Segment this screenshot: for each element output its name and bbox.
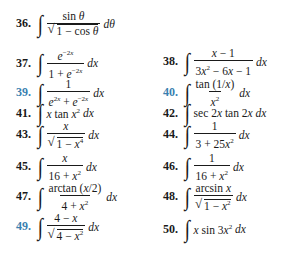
problem-number: 48. [163, 189, 184, 204]
integrand: x tan x2 [47, 107, 83, 120]
differential: dx [86, 161, 97, 173]
differential: dx [236, 191, 247, 203]
problem-50: 50. ∫ x sin 3x2 dx [163, 219, 246, 239]
differential: dx [87, 57, 98, 69]
fraction: arctan (x/2) 4 + x2 [47, 182, 104, 212]
differential: dx [93, 87, 104, 99]
fraction: x 16 + x2 [47, 152, 83, 182]
problem-number: 37. [16, 56, 37, 71]
problem-44: 44. ∫ 1 3 + 25x2 dx [163, 120, 250, 150]
fraction: x − 1 3x2 − 6x − 1 [194, 47, 253, 77]
problem-49: 49. ∫ 4 − x 4 − x2 dx [16, 212, 99, 242]
differential: dx [106, 191, 117, 203]
fraction: x 1 − x4 [47, 120, 86, 150]
fraction: 4 − x 4 − x2 [47, 212, 86, 242]
fraction: 1 16 + x2 [194, 152, 230, 182]
integral-sign-icon: ∫ [38, 187, 43, 207]
integral-sign-icon: ∫ [38, 125, 43, 145]
integrand: sec 2x tan 2x [194, 107, 256, 119]
integral-sign-icon: ∫ [38, 14, 43, 34]
problem-number: 50. [163, 222, 184, 237]
integral-sign-icon: ∫ [185, 157, 190, 177]
differential: dx [256, 107, 267, 119]
fraction: e−2x 1 + e−2x [47, 47, 85, 80]
differential: dx [239, 129, 250, 141]
differential: dx [235, 223, 246, 235]
differential: dx [88, 129, 99, 141]
integral-sign-icon: ∫ [185, 52, 190, 72]
differential: dx [88, 221, 99, 233]
problem-number: 38. [163, 54, 184, 69]
integral-sign-icon: ∫ [38, 217, 43, 237]
problem-46: 46. ∫ 1 16 + x2 dx [163, 152, 244, 182]
differential: dx [233, 161, 244, 173]
differential: dθ [103, 18, 114, 30]
differential: dx [83, 107, 94, 119]
integral-sign-icon: ∫ [38, 157, 43, 177]
problem-number: 45. [16, 159, 37, 174]
problem-number: 47. [16, 189, 37, 204]
problem-number: 41. [16, 106, 37, 121]
differential: dx [256, 56, 267, 68]
problem-45: 45. ∫ x 16 + x2 dx [16, 152, 97, 182]
problem-36: 36. ∫ sin θ 1 − cos θ dθ [16, 10, 115, 37]
problem-number: 42. [163, 106, 184, 121]
integral-sign-icon: ∫ [185, 187, 190, 207]
integral-sign-icon: ∫ [185, 219, 190, 239]
integral-sign-icon: ∫ [185, 125, 190, 145]
problem-number: 44. [163, 127, 184, 142]
differential: dx [239, 87, 250, 99]
problem-number: 43. [16, 127, 37, 142]
problem-37: 37. ∫ e−2x 1 + e−2x dx [16, 47, 98, 80]
problem-38: 38. ∫ x − 1 3x2 − 6x − 1 dx [163, 47, 267, 77]
problem-43: 43. ∫ x 1 − x4 dx [16, 120, 99, 150]
problem-number: 36. [16, 16, 37, 31]
fraction: 1 3 + 25x2 [194, 120, 236, 150]
problem-47: 47. ∫ arctan (x/2) 4 + x2 dx [16, 182, 117, 212]
integrand: x sin 3x2 [194, 223, 236, 236]
problem-48: 48. ∫ arcsin x 1 − x2 dx [163, 182, 247, 212]
integral-sign-icon: ∫ [38, 53, 43, 73]
problem-number: 49. [16, 219, 37, 234]
fraction: sin θ 1 − cos θ [47, 10, 101, 37]
problem-number: 40. [163, 85, 184, 100]
problem-number: 46. [163, 159, 184, 174]
fraction: arcsin x 1 − x2 [194, 182, 233, 212]
problem-number: 39. [16, 85, 37, 100]
